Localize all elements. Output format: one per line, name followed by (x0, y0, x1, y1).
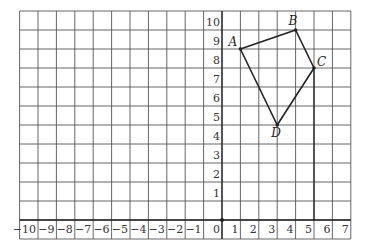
grid-lines (20, 11, 351, 239)
y-tick-label: 9 (213, 35, 220, 48)
y-tick-labels: 12345678910 (206, 16, 220, 200)
x-tick-label: −2 (167, 223, 183, 236)
x-tick-label: 4 (287, 223, 294, 236)
point-label-d: D (270, 126, 281, 140)
y-tick-label: 1 (213, 187, 220, 200)
y-tick-label: 7 (213, 73, 220, 86)
point-label-c: C (317, 55, 326, 69)
origin-dot (220, 218, 224, 222)
y-tick-label: 4 (213, 130, 220, 143)
x-tick-label: 6 (323, 223, 330, 236)
y-tick-label: 2 (213, 168, 220, 181)
x-tick-label: −8 (57, 223, 73, 236)
x-tick-label: −6 (93, 223, 109, 236)
x-tick-label: 1 (231, 223, 238, 236)
point-label-a: A (227, 35, 237, 49)
coordinate-grid-chart: −10−9−8−7−6−5−4−3−2−101234567 1234567891… (0, 0, 366, 249)
x-tick-label: −3 (149, 223, 165, 236)
vertex-point-b (294, 28, 298, 32)
x-tick-label: −1 (185, 223, 201, 236)
x-tick-label: 7 (342, 223, 349, 236)
y-tick-label: 3 (213, 149, 220, 162)
y-tick-label: 8 (213, 54, 220, 67)
vertex-point-a (239, 47, 243, 51)
x-tick-label: 2 (250, 223, 257, 236)
x-tick-label: 5 (305, 223, 312, 236)
x-tick-label: 0 (213, 223, 220, 236)
x-tick-labels: −10−9−8−7−6−5−4−3−2−101234567 (13, 223, 349, 236)
x-tick-label: −9 (38, 223, 54, 236)
y-tick-label: 6 (213, 92, 220, 105)
x-tick-label: −10 (13, 223, 36, 236)
y-tick-label: 5 (213, 111, 220, 124)
vertex-point-c (312, 66, 316, 70)
x-tick-label: −5 (112, 223, 128, 236)
point-label-b: B (288, 14, 298, 28)
x-tick-label: −7 (75, 223, 91, 236)
x-tick-label: −4 (130, 223, 146, 236)
y-tick-label: 10 (206, 16, 220, 29)
x-tick-label: 3 (268, 223, 275, 236)
